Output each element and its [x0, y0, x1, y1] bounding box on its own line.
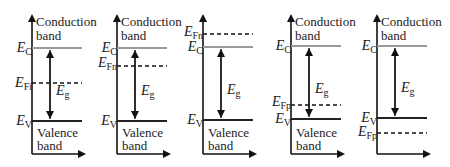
fermi-label: EFn: [97, 55, 117, 72]
conduction-band-text-2: band: [381, 28, 407, 43]
panel-degenerate-n: EgECEVEFnValenceband: [183, 18, 253, 154]
ev-label: EV: [274, 111, 292, 128]
bandgap-label: Eg: [226, 82, 241, 99]
ev-label: EV: [186, 112, 204, 129]
bandgap-label: Eg: [400, 80, 415, 97]
fermi-label: EFi: [14, 75, 32, 92]
fermi-label: EFp: [271, 94, 291, 111]
ec-label: EC: [361, 38, 378, 55]
bandgap-label: Eg: [140, 83, 155, 100]
ev-label: EV: [100, 113, 118, 130]
conduction-band-text: Conduction: [36, 14, 97, 29]
conduction-band-text: Conduction: [381, 14, 442, 29]
ec-label: EC: [16, 40, 33, 57]
valence-band-text-2: band: [122, 138, 148, 153]
panel-degenerate-p: EgECEVEFpConductionband: [357, 14, 442, 154]
valence-band-text-2: band: [208, 138, 234, 153]
conduction-band-text-2: band: [121, 28, 147, 43]
panel-intrinsic: EgECEVEFiConductionbandValenceband: [14, 14, 97, 154]
band-diagram-canvas: EgECEVEFiConductionbandValencebandEgECEV…: [0, 0, 450, 167]
valence-band-text-2: band: [37, 138, 63, 153]
ec-label: EC: [187, 39, 204, 56]
panel-p-type: EgECEVEFpConductionbandValenceband: [271, 14, 356, 154]
conduction-band-text: Conduction: [121, 14, 182, 29]
ev-label: EV: [15, 113, 33, 130]
valence-band-text-2: band: [296, 138, 322, 153]
fermi-label: EFn: [183, 24, 203, 41]
panel-n-type: EgECEVEFnConductionbandValenceband: [97, 14, 182, 154]
ec-label: EC: [275, 38, 292, 55]
bandgap-label: Eg: [314, 81, 329, 98]
conduction-band-text-2: band: [36, 28, 62, 43]
bandgap-label: Eg: [55, 83, 70, 100]
conduction-band-text-2: band: [295, 28, 321, 43]
conduction-band-text: Conduction: [295, 14, 356, 29]
